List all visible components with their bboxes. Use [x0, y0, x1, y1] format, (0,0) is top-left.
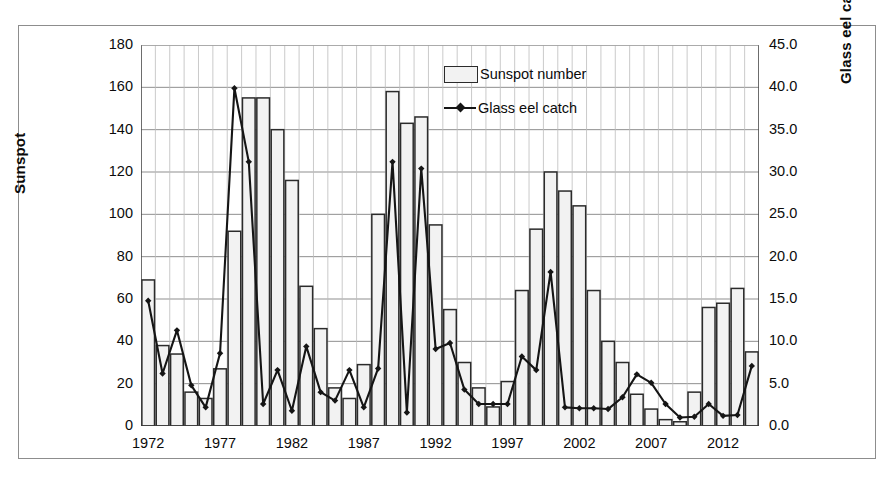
- y-tick-label-left: 120: [93, 163, 133, 179]
- line-diamond-swatch-icon: [444, 101, 476, 116]
- bar-swatch-icon: [444, 66, 478, 83]
- y-tick-label-right: 40.0: [769, 78, 797, 94]
- x-tick-label: 1987: [334, 435, 394, 451]
- x-tick-label: 2012: [693, 435, 753, 451]
- y-tick-label-left: 160: [93, 78, 133, 94]
- y-tick-label-left: 60: [93, 290, 133, 306]
- y-tick-label-right: 15.0: [769, 290, 797, 306]
- y-tick-label-left: 20: [93, 375, 133, 391]
- y-tick-label-right: 30.0: [769, 163, 797, 179]
- y-tick-label-left: 100: [93, 205, 133, 221]
- y-axis-title-right: Glass eel catch (tonnes): [837, 0, 854, 84]
- x-tick-label: 1992: [406, 435, 466, 451]
- y-tick-label-left: 80: [93, 248, 133, 264]
- y-axis-title-left: Sunspot: [11, 133, 28, 194]
- legend-item-sunspot-number: Sunspot number: [444, 61, 586, 87]
- x-tick-label: 1972: [118, 435, 178, 451]
- y-tick-label-left: 0: [93, 417, 133, 433]
- x-tick-label: 2002: [549, 435, 609, 451]
- x-tick-label: 1982: [262, 435, 322, 451]
- y-tick-label-right: 35.0: [769, 121, 797, 137]
- y-tick-label-right: 25.0: [769, 205, 797, 221]
- y-tick-label-left: 40: [93, 332, 133, 348]
- legend-label-sunspot-number: Sunspot number: [480, 66, 586, 82]
- x-tick-label: 1997: [477, 435, 537, 451]
- y-tick-label-right: 20.0: [769, 248, 797, 264]
- y-tick-label-left: 180: [93, 36, 133, 52]
- y-tick-label-right: 5.0: [769, 375, 789, 391]
- chart-figure: Sunspot Glass eel catch (tonnes) Sunspot…: [18, 25, 876, 459]
- legend-item-glass-eel-catch: Glass eel catch: [444, 95, 586, 121]
- y-tick-label-right: 0.0: [769, 417, 789, 433]
- y-tick-label-right: 45.0: [769, 36, 797, 52]
- bar-series-sunspot-number: [142, 92, 758, 426]
- x-tick-label: 2007: [621, 435, 681, 451]
- legend-label-glass-eel-catch: Glass eel catch: [478, 100, 577, 116]
- y-tick-label-left: 140: [93, 121, 133, 137]
- y-tick-label-right: 10.0: [769, 332, 797, 348]
- chart-legend: Sunspot number Glass eel catch: [444, 61, 586, 129]
- x-tick-label: 1977: [190, 435, 250, 451]
